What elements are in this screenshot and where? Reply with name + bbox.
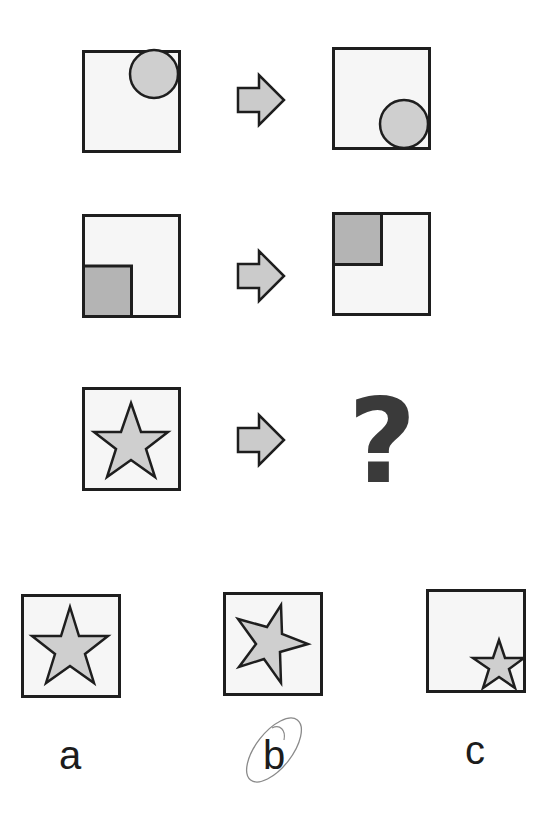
option-a-box[interactable] (21, 594, 121, 698)
row1-right-box (332, 47, 431, 150)
row1-arrow-icon (236, 73, 286, 127)
question-mark: ? (348, 382, 416, 500)
row2-right-box (332, 212, 431, 316)
row3-left-box (82, 387, 181, 491)
row3-arrow-icon (236, 413, 286, 467)
circle-shape (380, 100, 428, 148)
option-a-label: a (40, 735, 100, 775)
option-b-box[interactable] (223, 592, 323, 696)
square-shape (84, 266, 132, 317)
option-c-label: c (445, 730, 505, 770)
option-c-box[interactable] (426, 589, 526, 693)
square-shape (334, 214, 382, 265)
row2-arrow-icon (236, 249, 286, 303)
circle-shape (130, 50, 178, 98)
answer-circle-mark (236, 710, 316, 790)
row2-left-box (82, 214, 181, 318)
row1-left-box (82, 50, 181, 153)
